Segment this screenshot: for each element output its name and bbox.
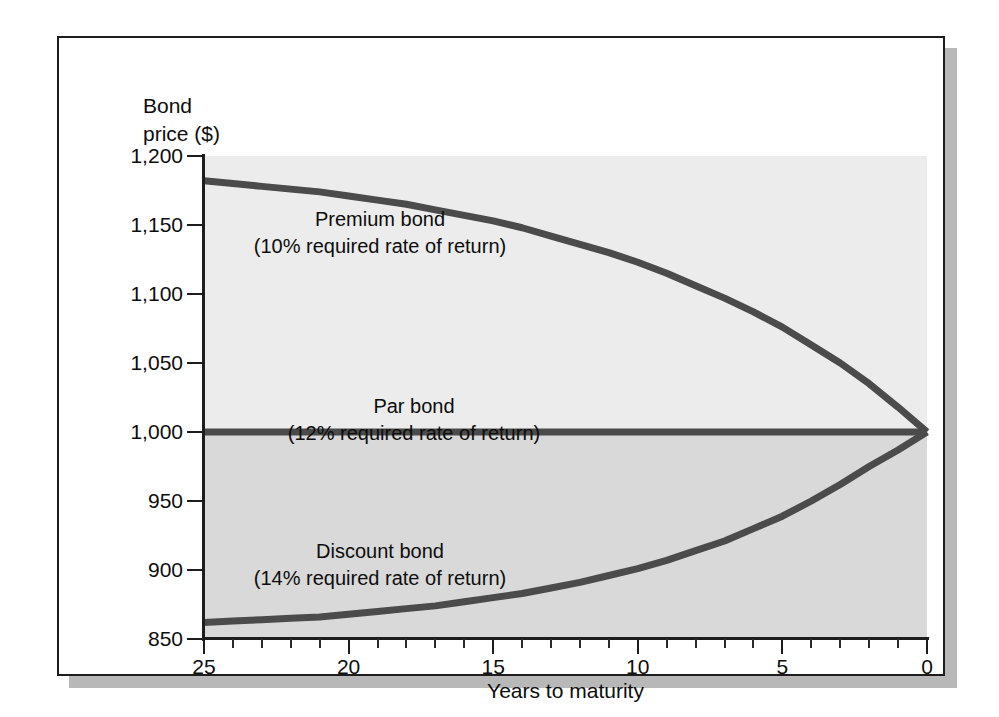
x-tick-minor-14: [521, 639, 523, 648]
x-tick-minor-4: [810, 639, 812, 648]
y-tick-label-1050: 1,050: [111, 352, 183, 373]
y-axis-line: [202, 154, 205, 641]
x-tick-label-0: 0: [897, 655, 957, 679]
curve-discount-bond: [204, 432, 927, 622]
x-tick-minor-21: [319, 639, 321, 648]
x-tick-minor-23: [261, 639, 263, 648]
x-tick-minor-3: [839, 639, 841, 648]
x-tick-major-15: [492, 639, 494, 654]
x-tick-minor-13: [550, 639, 552, 648]
x-tick-minor-12: [579, 639, 581, 648]
x-tick-label-15: 15: [463, 655, 523, 679]
y-tick-850: [187, 638, 203, 640]
x-tick-minor-2: [868, 639, 870, 648]
y-tick-900: [187, 569, 203, 571]
y-tick-label-950: 950: [111, 490, 183, 511]
x-tick-minor-8: [695, 639, 697, 648]
x-tick-minor-19: [377, 639, 379, 648]
x-tick-minor-6: [752, 639, 754, 648]
annotation-discount-bond: Discount bond (14% required rate of retu…: [225, 538, 535, 592]
annotation-discount-title: Discount bond: [316, 540, 444, 562]
y-tick-label-900: 900: [111, 559, 183, 580]
annotation-premium-bond: Premium bond (10% required rate of retur…: [225, 206, 535, 260]
x-tick-minor-24: [232, 639, 234, 648]
x-tick-minor-9: [666, 639, 668, 648]
y-tick-1150: [187, 224, 203, 226]
y-axis-title: Bond price ($): [143, 92, 220, 148]
x-tick-label-5: 5: [752, 655, 812, 679]
x-tick-major-20: [348, 639, 350, 654]
y-tick-1200: [187, 155, 203, 157]
x-tick-label-20: 20: [319, 655, 379, 679]
x-tick-major-0: [926, 639, 928, 654]
annotation-par-title: Par bond: [373, 395, 454, 417]
x-tick-minor-18: [405, 639, 407, 648]
y-tick-label-1150: 1,150: [111, 214, 183, 235]
x-tick-label-25: 25: [174, 655, 234, 679]
x-tick-minor-17: [434, 639, 436, 648]
x-tick-major-25: [203, 639, 205, 654]
x-axis-title: Years to maturity: [204, 679, 927, 703]
y-tick-1000: [187, 431, 203, 433]
x-tick-minor-1: [897, 639, 899, 648]
x-axis-line: [202, 637, 929, 640]
x-tick-minor-22: [290, 639, 292, 648]
y-tick-label-1000: 1,000: [111, 421, 183, 442]
x-tick-major-5: [781, 639, 783, 654]
x-tick-minor-16: [463, 639, 465, 648]
annotation-premium-title: Premium bond: [315, 208, 445, 230]
figure-frame: Bond price ($) 1,2001,1501,1001,0501,000…: [57, 36, 945, 676]
annotation-discount-subtitle: (14% required rate of return): [225, 565, 535, 592]
x-tick-major-10: [637, 639, 639, 654]
y-tick-label-1100: 1,100: [111, 283, 183, 304]
annotation-par-subtitle: (12% required rate of return): [259, 420, 569, 447]
x-tick-label-10: 10: [608, 655, 668, 679]
annotation-premium-subtitle: (10% required rate of return): [225, 233, 535, 260]
y-tick-950: [187, 500, 203, 502]
y-tick-1100: [187, 293, 203, 295]
y-tick-label-850: 850: [111, 628, 183, 649]
y-tick-1050: [187, 362, 203, 364]
x-tick-minor-11: [608, 639, 610, 648]
y-tick-label-1200: 1,200: [111, 145, 183, 166]
x-tick-minor-7: [724, 639, 726, 648]
annotation-par-bond: Par bond (12% required rate of return): [259, 393, 569, 447]
